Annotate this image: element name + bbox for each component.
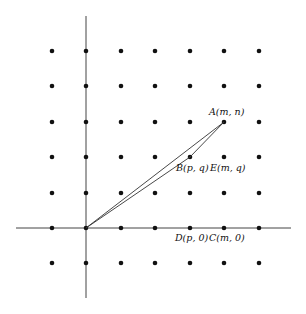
lattice-point bbox=[84, 84, 89, 89]
lattice-point bbox=[257, 49, 262, 54]
lattice-point bbox=[50, 155, 55, 160]
lattice-point bbox=[119, 120, 124, 125]
lattice-point bbox=[84, 49, 89, 54]
lattice-point bbox=[119, 49, 124, 54]
lattice-point bbox=[50, 191, 55, 196]
triangle-segments bbox=[86, 122, 224, 228]
lattice-point bbox=[50, 226, 55, 231]
lattice-point bbox=[257, 120, 262, 125]
label-point-c: C(m, 0) bbox=[209, 232, 245, 243]
lattice-point bbox=[257, 226, 262, 231]
lattice-point bbox=[222, 226, 227, 231]
lattice-point bbox=[84, 191, 89, 196]
lattice-point bbox=[119, 191, 124, 196]
lattice-point bbox=[222, 155, 227, 160]
lattice-point bbox=[222, 261, 227, 266]
lattice-point bbox=[153, 261, 158, 266]
lattice-point bbox=[153, 226, 158, 231]
lattice-point bbox=[50, 261, 55, 266]
lattice-point bbox=[257, 191, 262, 196]
lattice-point bbox=[84, 120, 89, 125]
lattice-point bbox=[188, 261, 193, 266]
lattice-point bbox=[119, 155, 124, 160]
lattice-point bbox=[257, 84, 262, 89]
lattice-point bbox=[153, 155, 158, 160]
lattice-point bbox=[153, 84, 158, 89]
lattice-point bbox=[153, 191, 158, 196]
lattice-point bbox=[84, 261, 89, 266]
lattice-point bbox=[188, 191, 193, 196]
label-point-d: D(p, 0) bbox=[174, 232, 208, 243]
segment-b-a bbox=[190, 122, 224, 157]
lattice-point bbox=[188, 120, 193, 125]
lattice-point bbox=[222, 191, 227, 196]
lattice-point bbox=[222, 84, 227, 89]
lattice-point bbox=[188, 226, 193, 231]
lattice-point bbox=[188, 84, 193, 89]
lattice-point bbox=[119, 261, 124, 266]
lattice-point bbox=[50, 120, 55, 125]
lattice-point bbox=[257, 261, 262, 266]
lattice-point bbox=[257, 155, 262, 160]
lattice-diagram: A(m, n) B(p, q) E(m, q) D(p, 0) C(m, 0) bbox=[0, 0, 306, 314]
segment-o-b bbox=[86, 157, 190, 228]
lattice-point bbox=[50, 84, 55, 89]
lattice-point bbox=[188, 49, 193, 54]
lattice-point bbox=[119, 84, 124, 89]
lattice-point bbox=[50, 49, 55, 54]
lattice-point bbox=[119, 226, 124, 231]
lattice-point bbox=[153, 49, 158, 54]
lattice-point bbox=[222, 49, 227, 54]
label-point-e: E(m, q) bbox=[209, 162, 246, 173]
lattice-point bbox=[153, 120, 158, 125]
label-point-a: A(m, n) bbox=[208, 106, 245, 117]
lattice-point bbox=[84, 155, 89, 160]
label-point-b: B(p, q) bbox=[175, 162, 209, 173]
segment-o-a bbox=[86, 122, 224, 228]
